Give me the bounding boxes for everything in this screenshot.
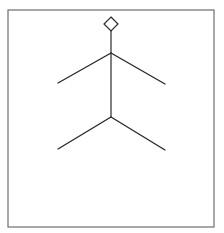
upper-right-branch [111,53,165,84]
stick-figure-diagram [0,0,224,233]
lower-right-branch [111,117,165,150]
diamond-marker-icon [104,17,118,31]
lower-left-branch [58,117,111,149]
diagram-canvas [0,0,224,233]
upper-left-branch [58,53,111,83]
